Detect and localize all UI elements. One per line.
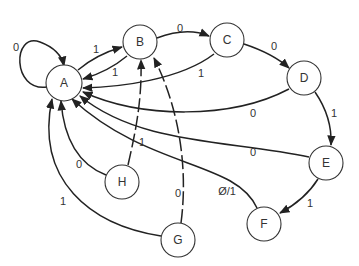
- edge-H-B: [128, 60, 141, 165]
- svg-text:G: G: [173, 233, 182, 247]
- edge-label-B-A: 1: [112, 66, 118, 78]
- state-node-A: A: [46, 65, 82, 101]
- svg-text:A: A: [60, 76, 68, 90]
- state-node-E: E: [309, 146, 343, 180]
- edge-label-H-B: 1: [139, 136, 145, 148]
- svg-text:F: F: [260, 217, 267, 231]
- state-node-D: D: [287, 61, 321, 95]
- edge-label-G-B: 0: [175, 187, 181, 199]
- svg-text:C: C: [223, 33, 232, 47]
- edge-label-H-A: 0: [76, 158, 82, 170]
- svg-text:D: D: [300, 71, 309, 85]
- state-node-C: C: [210, 23, 244, 57]
- state-node-H: H: [105, 165, 139, 199]
- edge-B-A: [83, 56, 127, 79]
- edge-label-C-D: 0: [271, 40, 277, 52]
- edge-E-A: [80, 96, 309, 157]
- edge-D-A: [83, 89, 289, 112]
- state-node-G: G: [161, 223, 195, 257]
- edge-label-E-F: 1: [307, 197, 313, 209]
- svg-text:H: H: [118, 175, 127, 189]
- edge-label-G-A: 1: [60, 195, 66, 207]
- edge-label-A-A: 0: [13, 41, 19, 53]
- edge-label-B-C: 0: [177, 22, 183, 34]
- edge-H-A: [61, 101, 106, 175]
- edge-G-A: [49, 99, 161, 236]
- edge-label-A-B: 1: [93, 43, 99, 55]
- edge-label-D-E: 1: [331, 107, 337, 119]
- edge-D-E: [315, 92, 331, 145]
- state-node-B: B: [123, 25, 157, 59]
- svg-text:B: B: [136, 35, 144, 49]
- edge-label-E-A: 0: [250, 146, 256, 158]
- edge-label-C-A: 1: [198, 67, 204, 79]
- svg-text:E: E: [322, 156, 330, 170]
- edge-label-D-A: 0: [250, 107, 256, 119]
- edge-label-F-A: Ø/1: [218, 185, 236, 197]
- state-diagram: 0 1 1 0 1 0 0 1 0 1 Ø/1 0 1 1 0 A B C D …: [0, 0, 359, 266]
- edge-C-D: [244, 44, 289, 68]
- state-node-F: F: [247, 207, 281, 241]
